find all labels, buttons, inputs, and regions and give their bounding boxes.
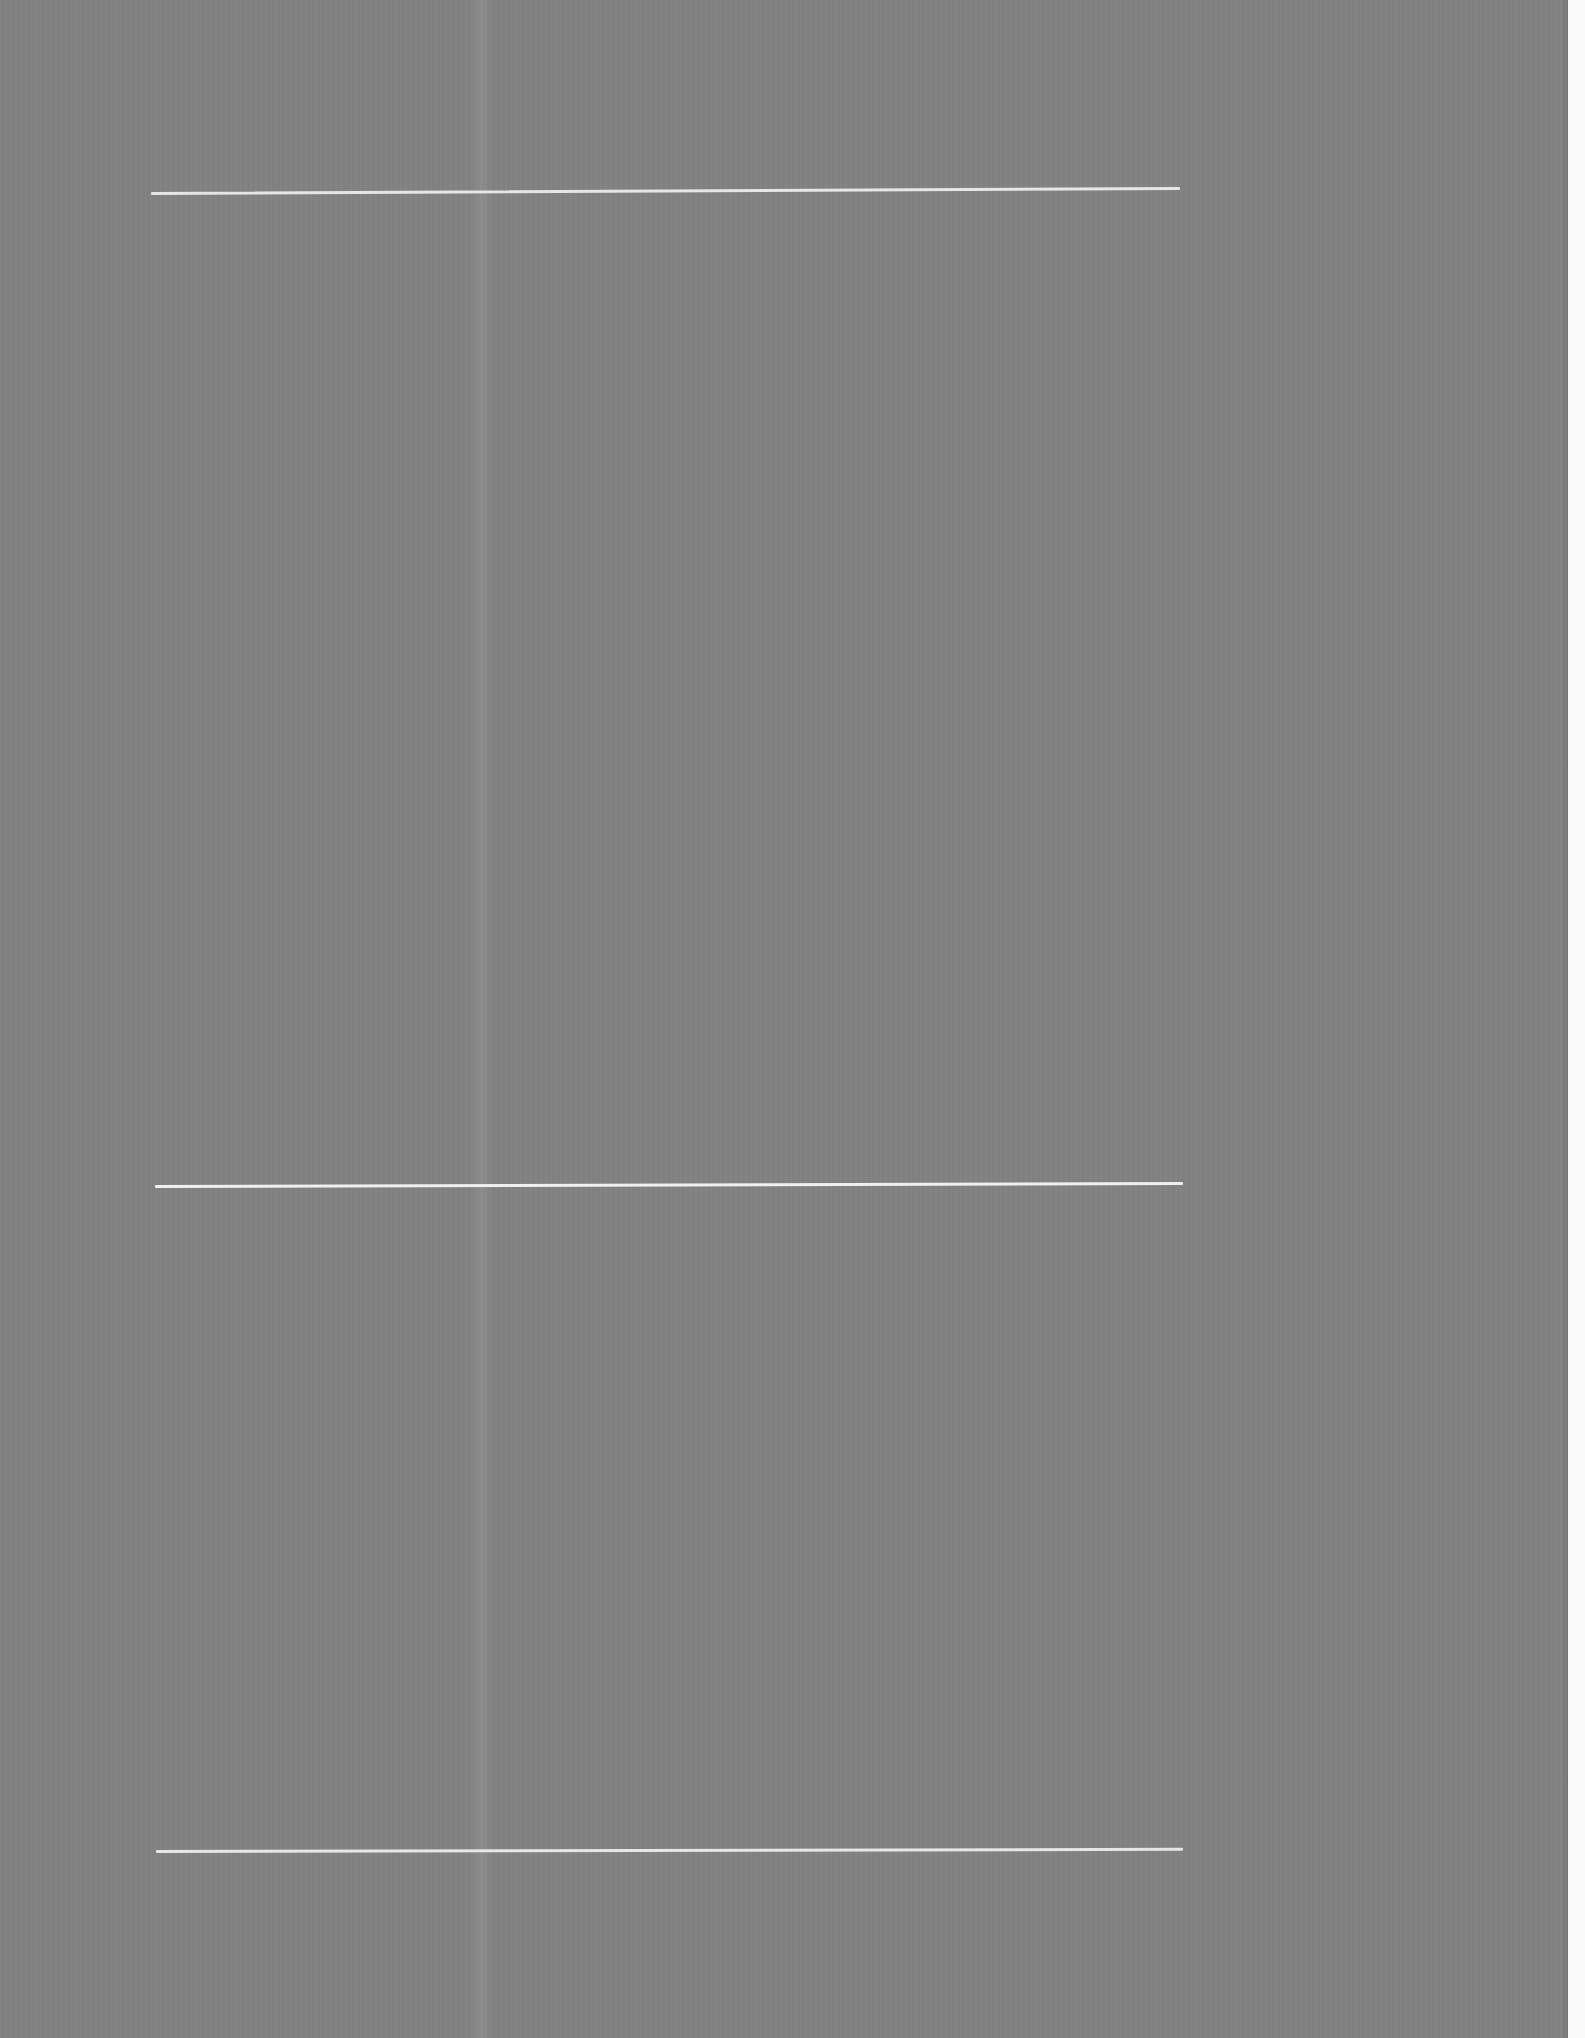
horizontal-rule-middle [155, 1182, 1183, 1188]
scanned-page [0, 0, 1568, 2038]
right-margin-strip [1568, 0, 1585, 2038]
horizontal-rule-bottom [156, 1848, 1183, 1853]
horizontal-rule-top [151, 187, 1180, 195]
